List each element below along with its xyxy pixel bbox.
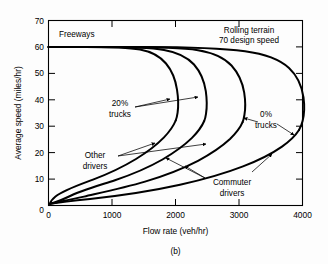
x-tick-label-4000: 4000 <box>293 210 312 220</box>
note-rolling-terrain: Rolling terrain <box>224 26 275 35</box>
x-tick-labels: 0 1000 2000 3000 4000 <box>46 210 312 220</box>
y-tick-label-60: 60 <box>35 42 45 52</box>
y-tick-label-30: 30 <box>35 121 45 131</box>
curve-series-2-lower <box>50 121 204 204</box>
y-axis-title: Average speed (miles/hr) <box>13 66 23 160</box>
annotation-other-drivers-line2: drivers <box>83 162 108 171</box>
y-tick-label-50: 50 <box>35 68 45 78</box>
x-tick-label-2000: 2000 <box>166 210 185 220</box>
speed-flow-chart: 70 60 50 40 30 20 10 0 0 1000 2000 3000 … <box>0 0 328 264</box>
y-tick-label-10: 10 <box>35 174 45 184</box>
annotation-commuter-drivers-line1: Commuter <box>213 178 251 187</box>
note-design-speed: 70 design speed <box>219 36 280 45</box>
x-axis-title: Flow rate (veh/hr) <box>143 226 209 236</box>
annotation-0-trucks-line2: trucks <box>255 121 277 130</box>
annotation-leaders-other-drivers <box>118 143 206 156</box>
x-tick-label-1000: 1000 <box>103 210 122 220</box>
curve-series-3-upper <box>49 47 246 122</box>
y-axis-ticks <box>49 21 56 206</box>
annotation-commuter-drivers-line2: drivers <box>220 189 245 198</box>
leader-commuter-c <box>252 154 272 172</box>
x-tick-label-0: 0 <box>46 210 51 220</box>
leader-0-trucks-a <box>277 124 294 135</box>
figure-caption: (b) <box>170 246 180 256</box>
figure-container: 70 60 50 40 30 20 10 0 0 1000 2000 3000 … <box>0 0 328 264</box>
y-tick-label-20: 20 <box>35 148 45 158</box>
y-tick-label-70: 70 <box>35 16 45 26</box>
y-axis-ticks-right <box>296 47 303 179</box>
annotation-20-trucks-line2: trucks <box>109 110 131 119</box>
annotation-other-drivers-line1: Other <box>85 151 106 160</box>
annotation-20-trucks-line1: 20% <box>112 99 128 108</box>
y-tick-labels: 70 60 50 40 30 20 10 0 <box>35 16 45 216</box>
y-tick-label-0: 0 <box>39 205 44 215</box>
annotation-leaders-20-trucks <box>135 97 198 107</box>
y-tick-label-40: 40 <box>35 95 45 105</box>
panel-label-freeways: Freeways <box>59 30 95 39</box>
leader-other-drivers-b <box>118 144 206 156</box>
x-tick-label-3000: 3000 <box>230 210 249 220</box>
annotation-0-trucks-line1: 0% <box>260 110 272 119</box>
leader-20-trucks-b <box>135 97 198 107</box>
